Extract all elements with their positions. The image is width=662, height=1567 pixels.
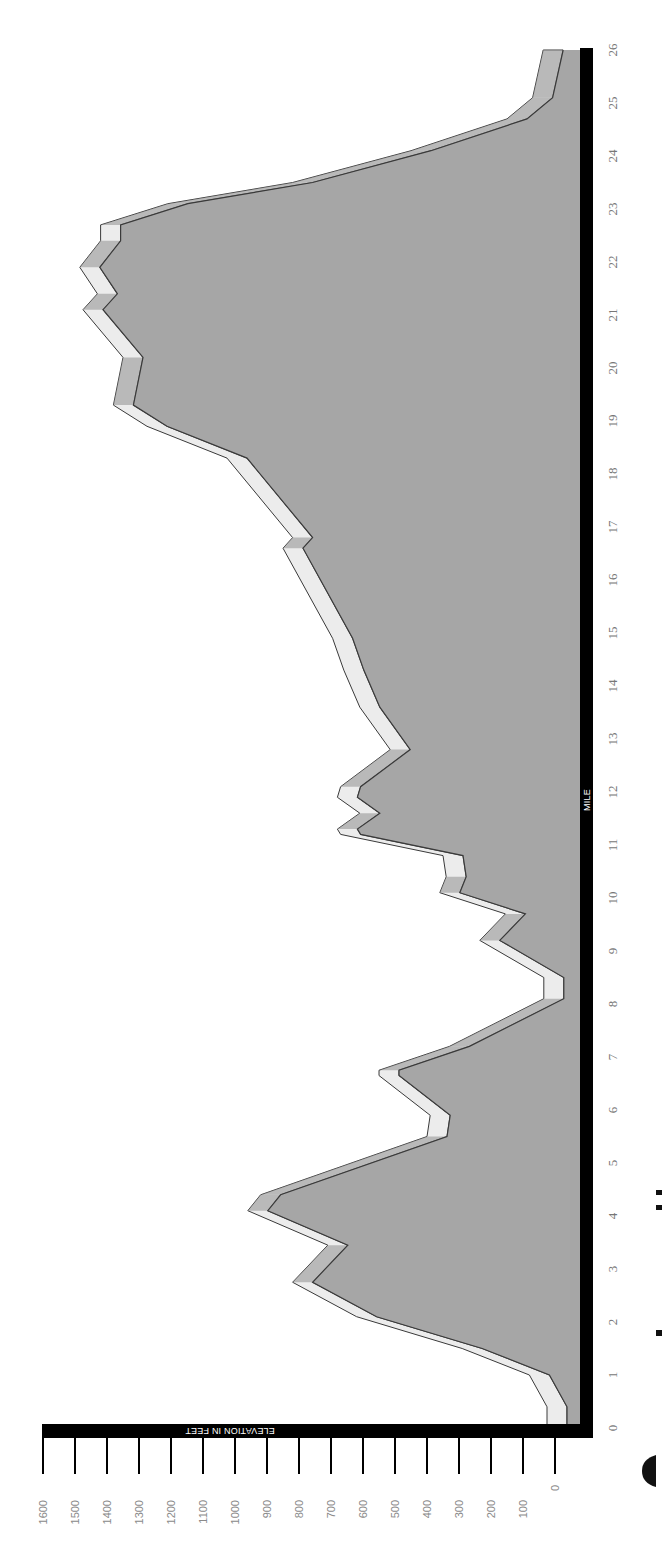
elevation-tick-label: 900 — [261, 1500, 273, 1518]
mile-tick-label: 2 — [605, 1319, 620, 1326]
elevation-tick-label: 1500 — [69, 1500, 81, 1524]
mile-tick-label: 0 — [605, 1425, 620, 1432]
mile-axis-title: MILE — [582, 789, 592, 811]
mile-tick-label: 12 — [605, 786, 620, 799]
elevation-tick-label: 600 — [357, 1500, 369, 1518]
elevation-ticks: 0100200300400500600700800900100011001200… — [37, 1438, 561, 1524]
elevation-area — [80, 50, 580, 1428]
elevation-tick-label: 0 — [549, 1485, 561, 1491]
mile-tick-label: 1 — [605, 1372, 620, 1379]
mile-tick-label: 14 — [605, 679, 620, 693]
elevation-tick-label: 1200 — [165, 1500, 177, 1524]
elevation-tick-label: 400 — [421, 1500, 433, 1518]
mile-tick-label: 10 — [605, 892, 620, 905]
mile-tick-label: 3 — [605, 1266, 620, 1273]
mile-tick-label: 23 — [605, 203, 620, 216]
elevation-tick-label: 800 — [293, 1500, 305, 1518]
elevation-tick-label: 1300 — [133, 1500, 145, 1524]
cropped-title-fragments — [642, 1190, 662, 1487]
elevation-profile-chart: MILE ELEVATION IN FEET 01002003004005006… — [0, 0, 662, 1567]
elevation-tick-label: 200 — [485, 1500, 497, 1518]
elevation-tick-label: 500 — [389, 1500, 401, 1518]
mile-ticks: 0123456789101112131415161718192021222324… — [605, 43, 620, 1431]
elevation-axis-bar — [42, 1424, 593, 1438]
mile-tick-label: 8 — [605, 1001, 620, 1008]
mile-tick-label: 5 — [605, 1160, 620, 1167]
mile-axis-bar — [580, 48, 593, 1438]
profile-fill — [100, 50, 580, 1428]
mile-tick-label: 11 — [605, 839, 620, 852]
mile-tick-label: 17 — [605, 520, 620, 534]
elevation-tick-label: 700 — [325, 1500, 337, 1518]
mile-tick-label: 4 — [605, 1212, 620, 1219]
elevation-tick-label: 1400 — [101, 1500, 113, 1524]
mile-tick-label: 19 — [605, 415, 620, 428]
mile-tick-label: 15 — [605, 627, 620, 640]
mile-tick-label: 22 — [605, 256, 620, 269]
elevation-axis-title: ELEVATION IN FEET — [185, 1426, 275, 1436]
mile-tick-label: 16 — [605, 573, 620, 587]
mile-tick-label: 13 — [605, 733, 620, 746]
mile-tick-label: 9 — [605, 948, 620, 955]
elevation-tick-label: 1100 — [197, 1500, 209, 1524]
mile-tick-label: 26 — [605, 43, 620, 57]
mile-tick-label: 21 — [605, 309, 620, 322]
mile-tick-label: 7 — [605, 1053, 620, 1060]
elevation-tick-label: 1000 — [229, 1500, 241, 1524]
mile-tick-label: 20 — [605, 362, 620, 375]
mile-tick-label: 6 — [605, 1106, 620, 1113]
mile-tick-label: 18 — [605, 468, 620, 481]
mile-tick-label: 25 — [605, 97, 620, 110]
elevation-tick-label: 300 — [453, 1500, 465, 1518]
mile-tick-label: 24 — [605, 149, 620, 163]
elevation-tick-label: 1600 — [37, 1500, 49, 1524]
elevation-tick-label: 100 — [517, 1500, 529, 1518]
